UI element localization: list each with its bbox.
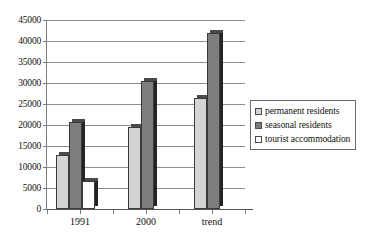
y-tick-label-10000: 10000	[0, 162, 41, 172]
x-tick-mark-5	[212, 210, 213, 214]
x-tick-mark-3	[146, 210, 147, 214]
bar-side-shadow	[154, 78, 157, 206]
y-tick-label-5000: 5000	[0, 183, 41, 193]
y-tick-mark-30000	[43, 83, 47, 84]
legend-key-swatch-icon	[255, 136, 262, 143]
x-tick-mark-4	[179, 210, 180, 214]
y-tick-label-0: 0	[0, 204, 41, 214]
gridline-45000	[47, 20, 245, 21]
bar-face	[82, 181, 95, 209]
y-tick-mark-45000	[43, 20, 47, 21]
bar-trend-permanent-residents	[194, 98, 207, 209]
legend-item-seasonal-residents[interactable]: seasonal residents	[255, 118, 350, 132]
x-tick-label-2000: 2000	[116, 216, 176, 227]
bar-1991-seasonal-residents	[69, 122, 82, 209]
bar-1991-tourist-accommodation	[82, 181, 95, 209]
bar-2000-seasonal-residents	[141, 81, 154, 209]
x-tick-label-1991: 1991	[50, 216, 110, 227]
bar-face	[194, 98, 207, 209]
x-tick-mark-2	[113, 210, 114, 214]
y-axis-line	[46, 20, 47, 210]
bar-trend-seasonal-residents	[207, 33, 220, 209]
legend-key-swatch-icon	[255, 122, 262, 129]
legend-label: seasonal residents	[265, 120, 332, 130]
x-axis-line	[47, 209, 253, 210]
bar-face	[69, 122, 82, 209]
legend-item-tourist-accommodation[interactable]: tourist accommodation	[255, 132, 350, 146]
y-tick-mark-5000	[43, 188, 47, 189]
y-tick-mark-40000	[43, 41, 47, 42]
legend-label: permanent residents	[265, 106, 339, 116]
bar-side-shadow	[95, 178, 98, 206]
bar-face	[128, 127, 141, 209]
x-tick-mark-6	[245, 210, 246, 214]
x-tick-mark-0	[47, 210, 48, 214]
y-tick-mark-15000	[43, 146, 47, 147]
y-tick-mark-20000	[43, 125, 47, 126]
chart-legend: permanent residentsseasonal residentstou…	[250, 100, 356, 150]
y-tick-label-25000: 25000	[0, 99, 41, 109]
legend-rows: permanent residentsseasonal residentstou…	[255, 104, 350, 146]
y-tick-mark-25000	[43, 104, 47, 105]
y-tick-label-15000: 15000	[0, 141, 41, 151]
y-tick-label-30000: 30000	[0, 78, 41, 88]
plot-area	[47, 20, 245, 209]
legend-label: tourist accommodation	[265, 134, 350, 144]
bar-face	[56, 155, 69, 209]
bar-side-shadow	[220, 30, 223, 206]
bar-face	[207, 33, 220, 209]
bar-face	[141, 81, 154, 209]
x-tick-label-trend: trend	[182, 216, 242, 227]
legend-item-permanent-residents[interactable]: permanent residents	[255, 104, 350, 118]
y-tick-mark-35000	[43, 62, 47, 63]
bar-2000-permanent-residents	[128, 127, 141, 209]
bar-chart: 0500010000150002000025000300003500040000…	[0, 0, 392, 247]
y-tick-label-45000: 45000	[0, 15, 41, 25]
bar-1991-permanent-residents	[56, 155, 69, 209]
y-tick-label-35000: 35000	[0, 57, 41, 67]
x-tick-mark-1	[80, 210, 81, 214]
legend-key-swatch-icon	[255, 108, 262, 115]
y-tick-label-40000: 40000	[0, 36, 41, 46]
y-tick-mark-10000	[43, 167, 47, 168]
y-tick-label-20000: 20000	[0, 120, 41, 130]
